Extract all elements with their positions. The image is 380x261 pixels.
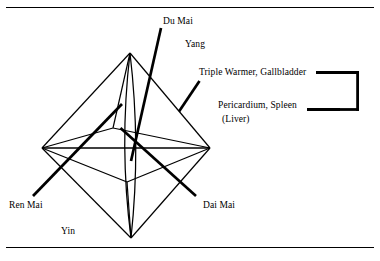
label-dai-mai: Dai Mai [203, 200, 235, 211]
dai-mai-leader [121, 128, 197, 196]
label-triple-warmer: Triple Warmer, Gallbladder [199, 67, 306, 78]
pairing-bracket [316, 71, 359, 111]
label-yang: Yang [185, 39, 205, 50]
label-liver: (Liver) [222, 114, 250, 125]
triple-warmer-leader [179, 81, 200, 112]
label-yin: Yin [61, 226, 75, 237]
label-pericardium: Pericardium, Spleen [218, 100, 297, 111]
label-du-mai: Du Mai [163, 16, 193, 27]
octahedron-outline [42, 53, 210, 238]
diagram-canvas: Du Mai Yang Triple Warmer, Gallbladder P… [0, 0, 380, 261]
label-ren-mai: Ren Mai [9, 200, 43, 211]
